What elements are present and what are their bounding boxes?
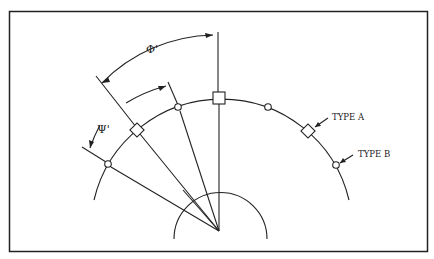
psi-extension-line (168, 82, 178, 105)
phi-label: Φ' (146, 43, 158, 56)
arrowhead (102, 77, 110, 83)
psi-label: Ψ' (97, 123, 110, 136)
diagram-canvas: Φ' Ψ' TYPE A TYPE B (0, 0, 434, 259)
type-b-label: TYPE B (358, 149, 390, 159)
type-a-marker (213, 92, 225, 104)
radial-line (180, 111, 219, 231)
radial-line (111, 167, 219, 231)
outer-arc (94, 99, 349, 200)
arrowhead (315, 122, 321, 127)
arrowhead (205, 33, 213, 38)
arrowhead (158, 86, 166, 91)
psi-extension-line (82, 147, 106, 162)
hub-arc (174, 193, 267, 240)
type-b-marker (105, 161, 112, 168)
arrowhead (89, 140, 94, 148)
type-b-marker (265, 104, 272, 111)
type-b-marker (333, 162, 340, 169)
type-b-marker (175, 104, 182, 111)
type-a-label: TYPE A (332, 112, 365, 122)
